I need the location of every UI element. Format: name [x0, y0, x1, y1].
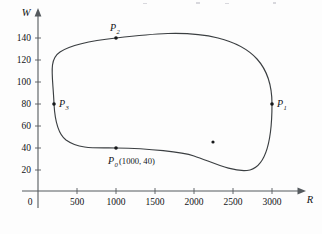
- point-label-p1: P 1: [276, 98, 287, 111]
- scan-artifact: [143, 3, 147, 4]
- y-tick-labels: 20 40 60 80 100 120 140: [17, 33, 32, 175]
- chart-figure: 0 500 1000 1500 2000 2500 3000 20 40 60 …: [0, 0, 322, 234]
- y-tick-label-60: 60: [22, 121, 32, 131]
- point-marker-p1[interactable]: [270, 102, 274, 106]
- x-tick-label-500: 500: [70, 197, 85, 207]
- point-marker-p2[interactable]: [114, 36, 118, 40]
- point-label-p0: P 0 (1000, 40): [107, 155, 155, 168]
- data-point-markers: [52, 36, 274, 150]
- point-label-p3-base: P: [58, 98, 65, 109]
- x-tick-label-2000: 2000: [185, 197, 204, 207]
- x-tick-label-0: 0: [28, 197, 33, 207]
- y-tick-label-100: 100: [17, 77, 32, 87]
- scan-artifact: [273, 2, 276, 4]
- point-label-p3-sub: 3: [65, 104, 70, 111]
- point-marker-p3[interactable]: [52, 102, 56, 106]
- x-tick-label-3000: 3000: [263, 197, 282, 207]
- x-tick-labels: 0 500 1000 1500 2000 2500 3000: [28, 197, 282, 207]
- x-tick-label-1000: 1000: [107, 197, 126, 207]
- scan-artifact: [196, 2, 200, 4]
- point-label-p1-base: P: [276, 98, 283, 109]
- y-tick-label-80: 80: [22, 99, 32, 109]
- point-label-p0-base: P: [107, 155, 114, 166]
- y-axis-arrow-icon: [35, 8, 42, 17]
- plot-area: 0 500 1000 1500 2000 2500 3000 20 40 60 …: [0, 0, 322, 234]
- point-label-p0-coords: (1000, 40): [119, 156, 155, 166]
- point-label-p3: P 3: [58, 98, 70, 111]
- point-label-p1-sub: 1: [284, 104, 287, 111]
- closed-curve-path: [52, 33, 272, 170]
- y-tick-label-20: 20: [22, 165, 32, 175]
- y-axis-label: W: [22, 7, 32, 18]
- x-axis-arrow-icon: [298, 188, 307, 195]
- x-tick-label-2500: 2500: [224, 197, 243, 207]
- point-label-p2-base: P: [109, 22, 116, 33]
- point-marker-unlabeled[interactable]: [211, 140, 214, 143]
- y-tick-label-40: 40: [22, 143, 32, 153]
- point-marker-p0[interactable]: [114, 146, 118, 150]
- scan-artifact: [225, 3, 229, 4]
- x-axis-label: R: [306, 194, 314, 205]
- y-tick-label-140: 140: [17, 33, 32, 43]
- x-tick-label-1500: 1500: [146, 197, 165, 207]
- point-label-p2: P 2: [109, 22, 121, 35]
- point-label-p0-sub: 0: [115, 161, 119, 168]
- y-tick-label-120: 120: [17, 55, 32, 65]
- point-label-p2-sub: 2: [117, 28, 121, 35]
